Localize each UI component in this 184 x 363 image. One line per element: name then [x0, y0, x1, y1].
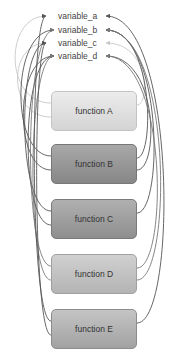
function-e-box[interactable]: function E — [51, 309, 137, 349]
function-b-label: function B — [75, 159, 113, 169]
function-a-label: function A — [75, 106, 112, 116]
function-c-label: function C — [75, 214, 113, 224]
variable-a-label: variable_a — [58, 11, 97, 21]
function-d-label: function D — [75, 269, 113, 279]
variable-c-label: variable_c — [58, 38, 97, 48]
function-a-box[interactable]: function A — [51, 91, 137, 131]
function-d-box[interactable]: function D — [51, 254, 137, 294]
function-b-box[interactable]: function B — [51, 144, 137, 184]
variable-b-label: variable_b — [58, 25, 97, 35]
function-c-box[interactable]: function C — [51, 199, 137, 239]
function-e-label: function E — [75, 324, 113, 334]
write-edge-e-to-c — [37, 43, 51, 335]
variable-d-label: variable_d — [58, 51, 97, 61]
